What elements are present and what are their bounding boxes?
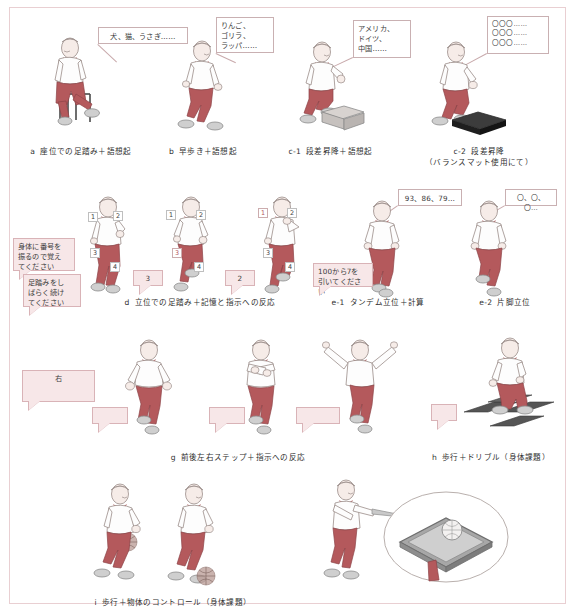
instruction-bubble-d-1: 身体に番号を 振るので覚え てください — [13, 238, 75, 271]
caption-e1-key: e-1 — [332, 298, 345, 307]
body-number-tag-1: 1 — [258, 208, 268, 218]
caption-f-text: 前後左右ステップ＋指示への反応 — [181, 453, 306, 462]
caption-g-text: 歩行＋ドリブル（身体課題） — [442, 453, 550, 462]
body-number-tag-3: 3 — [263, 248, 273, 258]
cue-bubble-d-3: 3 — [133, 270, 163, 286]
detail-callout-tray-with-ball — [382, 490, 510, 585]
person-a-seated-marching — [46, 32, 116, 132]
person-b-brisk-walking — [172, 37, 234, 133]
body-number-tag-2: 2 — [196, 210, 206, 220]
caption-c2-key: c-2 — [454, 147, 467, 156]
caption-c2: c-2段差昇降 （バランスマット使用にて） — [404, 137, 554, 168]
bubble-tail — [438, 420, 449, 429]
bubble-tail — [29, 401, 40, 410]
body-number-tag-1: 1 — [88, 212, 98, 222]
person-g-step-pads — [460, 336, 570, 428]
body-number-tag-4: 4 — [194, 262, 204, 272]
bubble-tail — [99, 423, 110, 432]
caption-h-text: 歩行＋物体のコントロール（身体課題） — [102, 598, 251, 607]
person-h2-walking-dribble — [164, 480, 230, 588]
caption-a-text: 座位での足踏み＋語想起 — [40, 147, 131, 156]
caption-e2-text: 片脚立位 — [497, 298, 530, 307]
caption-g-key: h — [432, 453, 437, 462]
person-f2-rock-hand — [230, 336, 292, 436]
person-d1-standing-march — [82, 192, 138, 300]
caption-d-key: d — [124, 298, 129, 307]
caption-b-text: 早歩き＋語想起 — [179, 147, 237, 156]
body-number-tag-3: 3 — [172, 248, 182, 258]
person-f1-paper-hand — [118, 336, 180, 436]
person-c1-step-up — [300, 38, 370, 134]
caption-d-text: 立位での足踏み＋記憶と指示への反応 — [135, 298, 276, 307]
caption-g: h歩行＋ドリブル（身体課題） — [406, 443, 576, 464]
caption-c1-text: 段差昇降＋語想起 — [306, 147, 372, 156]
caption-h: i歩行＋物体のコントロール（身体課題） — [88, 588, 258, 609]
caption-c1-key: c-1 — [288, 147, 301, 156]
body-number-tag-3: 3 — [90, 248, 100, 258]
caption-b: b早歩き＋語想起 — [144, 137, 262, 158]
bubble-tail — [216, 423, 227, 432]
bubble-tail — [303, 423, 314, 432]
caption-e1-text: タンデム立位＋計算 — [350, 298, 425, 307]
instruction-bubble-e1: 100から7を 引いてください — [313, 263, 373, 287]
instruction-bubble-d-2: 足踏みをし ばらく続け てください — [23, 274, 81, 307]
caption-c1: c-1段差昇降＋語想起 — [268, 137, 393, 158]
cue-bubble-d-2: 2 — [225, 270, 255, 286]
caption-e1: e-1タンデム立位＋計算 — [318, 288, 438, 309]
body-number-tag-2: 2 — [287, 208, 297, 218]
cue-bubble-g — [431, 404, 457, 421]
bubble-tail — [30, 306, 41, 315]
caption-i — [318, 588, 538, 609]
body-number-tag-4: 4 — [285, 262, 295, 272]
caption-a: a座位での足踏み＋語想起 — [16, 137, 146, 158]
body-number-tag-4: 4 — [110, 262, 120, 272]
body-number-tag-2: 2 — [113, 211, 123, 221]
person-c2-step-on-mat — [432, 38, 512, 138]
caption-c2-text: 段差昇降 （バランスマット使用にて） — [425, 147, 533, 166]
person-f3-scissors-hand — [320, 332, 400, 436]
caption-f-key: g — [171, 453, 176, 462]
caption-d: d立位での足踏み＋記憶と指示への反応 — [100, 288, 300, 309]
person-d2-knee-lift — [165, 192, 221, 300]
caption-b-key: b — [169, 147, 174, 156]
person-h1-walking-dribble — [90, 480, 156, 584]
figure-panel: 犬、猫、うさぎ…… — [0, 0, 577, 613]
caption-h-key: i — [95, 598, 97, 607]
caption-e2-key: e-2 — [479, 298, 492, 307]
person-e2-single-leg-stance — [462, 196, 518, 300]
instruction-bubble-f: 右 — [22, 370, 95, 402]
caption-e2: e-2片脚立位 — [460, 288, 550, 309]
caption-a-key: a — [30, 147, 35, 156]
caption-f: g前後左右ステップ＋指示への反応 — [168, 443, 308, 464]
body-number-tag-1: 1 — [166, 210, 176, 220]
